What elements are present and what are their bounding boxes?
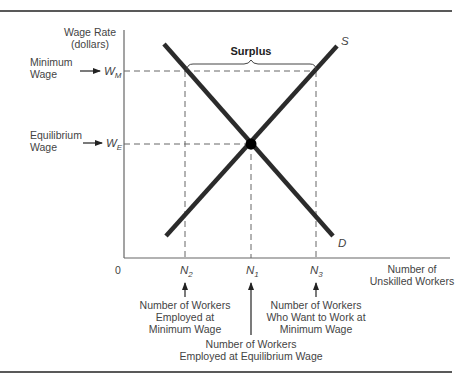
supply-demand-diagram: Surplus S D Wage Rate (dollars) Minimum … [0, 0, 472, 383]
x-axis-title-line1: Number of [387, 263, 436, 275]
surplus-brace [187, 60, 316, 70]
n2-tick-label: N2 [180, 264, 193, 279]
demand-label: D [338, 237, 346, 249]
min-wage-label-line1: Minimum [30, 56, 73, 68]
wm-tick-label: WM [104, 65, 122, 80]
we-tick-label: WE [106, 137, 123, 152]
n1-desc-line2: Employed at Equilibrium Wage [179, 350, 322, 362]
n1-tick-label: N1 [246, 264, 259, 279]
eq-wage-label-line2: Wage [30, 141, 57, 153]
origin-label: 0 [115, 264, 121, 276]
n2-desc-line1: Number of Workers [140, 299, 231, 311]
n3-desc-line1: Number of Workers [271, 299, 362, 311]
y-axis-title-line2: (dollars) [71, 38, 109, 50]
n3-desc-line2: Who Want to Work at [266, 311, 365, 323]
n3-tick-label: N3 [310, 264, 323, 279]
n2-desc-line3: Minimum Wage [149, 323, 222, 335]
y-axis-title-line1: Wage Rate [64, 26, 116, 38]
supply-label: S [341, 35, 349, 47]
n2-desc-line2: Employed at [156, 311, 214, 323]
eq-wage-label-line1: Equilibrium [30, 129, 82, 141]
x-axis-title-line2: Unskilled Workers [370, 275, 454, 287]
equilibrium-point [246, 139, 257, 150]
n3-desc-line3: Minimum Wage [280, 323, 353, 335]
n1-desc-line1: Number of Workers [206, 338, 297, 350]
min-wage-label-line2: Wage [30, 68, 57, 80]
surplus-label: Surplus [231, 45, 272, 57]
